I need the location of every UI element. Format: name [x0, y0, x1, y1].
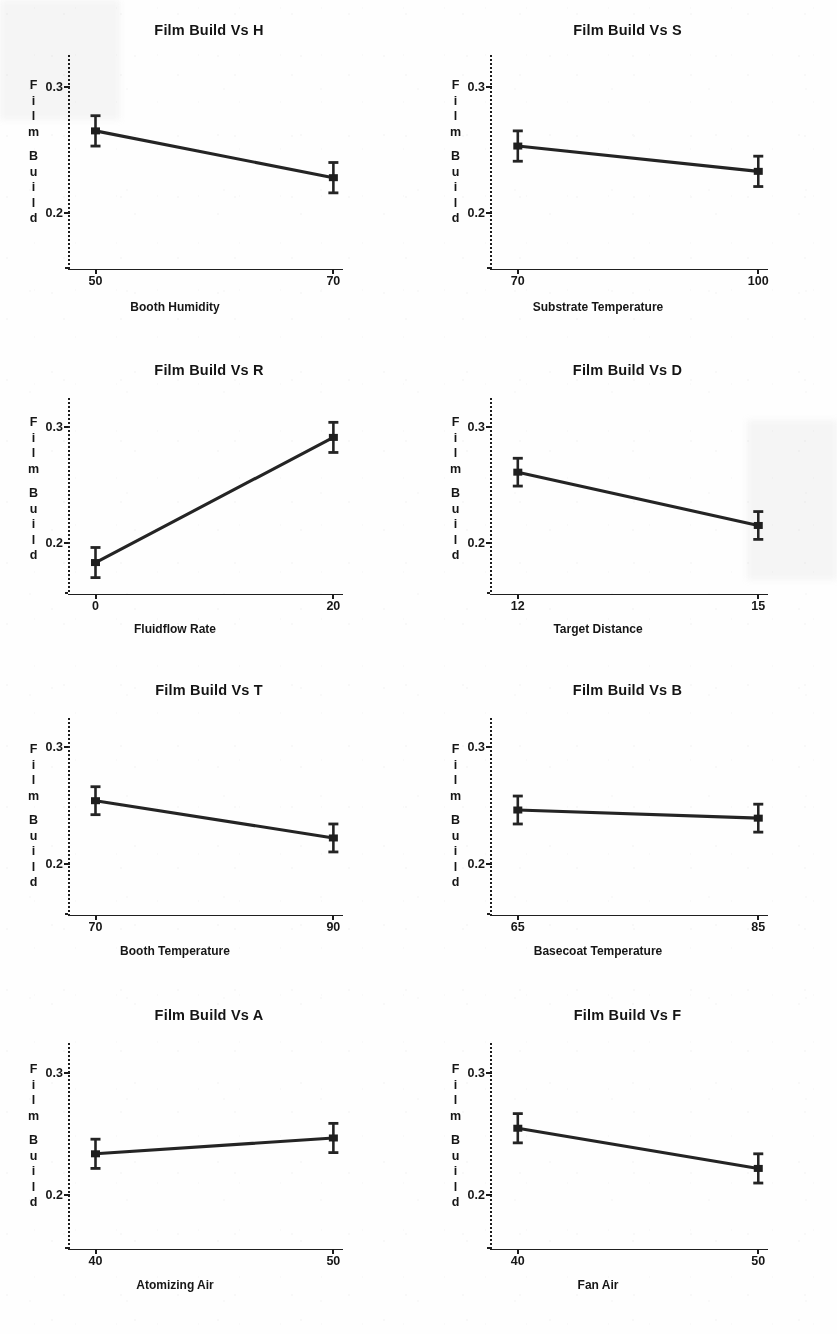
- x-axis-caption: Fan Air: [448, 1278, 748, 1292]
- y-tick-mark: [64, 426, 70, 428]
- y-tick-label: 0.2: [46, 206, 63, 220]
- y-axis-label-char: F: [30, 742, 38, 758]
- x-axis: [68, 269, 343, 270]
- y-axis-label-char: l: [32, 533, 35, 549]
- y-tick-label: 0.2: [46, 1188, 63, 1202]
- y-axis-label-char: i: [32, 180, 35, 196]
- y-axis-label-char: i: [454, 758, 457, 774]
- y-axis-label: FilmBuild: [450, 742, 461, 891]
- x-tick-label: 12: [511, 599, 525, 613]
- panel-title: Film Build Vs B: [418, 682, 837, 698]
- plot-area: 0.30.26585: [490, 718, 768, 916]
- y-tick-mark: [486, 863, 492, 865]
- y-axis-label-char: m: [450, 1109, 461, 1125]
- y-axis-label-char: i: [454, 1078, 457, 1094]
- x-tick-mark: [95, 594, 97, 599]
- y-axis-label-char: l: [32, 1093, 35, 1109]
- y-tick-label: 0.2: [468, 857, 485, 871]
- x-tick-label: 20: [326, 599, 340, 613]
- x-tick-mark: [332, 915, 334, 920]
- panel-title: Film Build Vs H: [0, 22, 418, 38]
- y-axis-label-char: m: [28, 125, 39, 141]
- x-tick-label: 50: [89, 274, 103, 288]
- y-axis-label-char: l: [32, 196, 35, 212]
- y-tick-mark: [486, 86, 492, 88]
- y-axis-label-char: l: [454, 773, 457, 789]
- data-series: [68, 718, 343, 916]
- y-axis-label-char: i: [32, 517, 35, 533]
- x-axis-caption: Basecoat Temperature: [448, 944, 748, 958]
- x-axis: [490, 269, 768, 270]
- data-series: [490, 718, 768, 916]
- y-axis-label-char: F: [452, 78, 460, 94]
- x-tick-mark: [517, 915, 519, 920]
- y-axis-label: FilmBuild: [28, 1062, 39, 1211]
- x-axis-caption: Substrate Temperature: [448, 300, 748, 314]
- y-axis-label-char: B: [29, 486, 38, 502]
- y-tick-label: 0.2: [46, 536, 63, 550]
- x-axis-caption: Fluidflow Rate: [30, 622, 320, 636]
- y-axis-label-char: i: [32, 758, 35, 774]
- panel-title: Film Build Vs T: [0, 682, 418, 698]
- y-tick-mark: [64, 746, 70, 748]
- x-axis-caption: Booth Humidity: [30, 300, 320, 314]
- y-tick-label: 0.3: [468, 80, 485, 94]
- y-axis-label: FilmBuild: [450, 1062, 461, 1211]
- y-axis-label-char: l: [454, 446, 457, 462]
- y-tick-label: 0.3: [468, 420, 485, 434]
- y-axis-label-char: d: [452, 211, 460, 227]
- y-axis-label-char: d: [30, 211, 38, 227]
- y-axis-label-char: F: [452, 415, 460, 431]
- y-tick-mark: [486, 1194, 492, 1196]
- y-tick-mark: [486, 1072, 492, 1074]
- y-axis-label-char: i: [454, 517, 457, 533]
- y-axis-label-char: B: [451, 486, 460, 502]
- x-tick-mark: [757, 915, 759, 920]
- y-axis-label-char: B: [451, 1133, 460, 1149]
- y-axis-label-char: B: [29, 813, 38, 829]
- y-tick-mark: [486, 426, 492, 428]
- x-axis: [490, 594, 768, 595]
- data-series: [68, 398, 343, 595]
- y-axis-label-char: l: [32, 446, 35, 462]
- plot-area: 0.30.2020: [68, 398, 343, 595]
- y-axis-label-char: i: [454, 1164, 457, 1180]
- x-axis-caption: Target Distance: [448, 622, 748, 636]
- y-axis-label-char: l: [32, 109, 35, 125]
- y-axis-label-char: u: [30, 165, 38, 181]
- y-axis-label: FilmBuild: [28, 742, 39, 891]
- panel-title: Film Build Vs D: [418, 362, 837, 378]
- y-axis-label-char: i: [32, 1078, 35, 1094]
- y-axis-label-char: d: [30, 548, 38, 564]
- y-axis-label-char: u: [452, 1149, 460, 1165]
- x-tick-label: 85: [751, 920, 765, 934]
- data-series: [490, 398, 768, 595]
- plot-area: 0.30.24050: [68, 1043, 343, 1250]
- y-axis-label-char: l: [32, 1180, 35, 1196]
- plot-area: 0.30.24050: [490, 1043, 768, 1250]
- y-axis-label-char: l: [454, 196, 457, 212]
- panel-title: Film Build Vs S: [418, 22, 837, 38]
- y-axis-label-char: F: [30, 415, 38, 431]
- y-axis-label-char: u: [452, 165, 460, 181]
- y-axis-label-char: l: [32, 860, 35, 876]
- x-axis: [68, 1249, 343, 1250]
- y-axis-label-char: i: [454, 844, 457, 860]
- y-axis-label: FilmBuild: [28, 78, 39, 227]
- y-axis-label-char: m: [28, 789, 39, 805]
- x-tick-label: 50: [751, 1254, 765, 1268]
- y-tick-label: 0.2: [468, 536, 485, 550]
- plot-area: 0.30.270100: [490, 55, 768, 270]
- y-axis-label-char: i: [454, 180, 457, 196]
- y-axis-label-char: i: [32, 1164, 35, 1180]
- y-axis-label-char: m: [450, 789, 461, 805]
- data-series: [68, 1043, 343, 1250]
- y-tick-mark: [64, 1072, 70, 1074]
- y-tick-label: 0.3: [46, 1066, 63, 1080]
- y-axis-label-char: u: [30, 829, 38, 845]
- y-axis-label-char: F: [30, 1062, 38, 1078]
- y-axis-label-char: d: [452, 1195, 460, 1211]
- x-tick-mark: [757, 269, 759, 274]
- panel-title: Film Build Vs A: [0, 1007, 418, 1023]
- y-tick-mark: [486, 212, 492, 214]
